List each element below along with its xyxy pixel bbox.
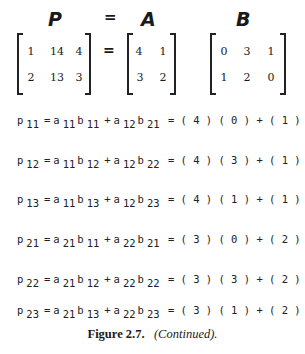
subscript: 13	[87, 197, 100, 209]
expansion: = ( 4 ) ( 1 ) + ( 1 ) ( 0 ) = 4	[168, 193, 305, 205]
term: b	[77, 154, 83, 166]
term: p	[17, 273, 23, 285]
subscript: 22	[147, 277, 160, 289]
equation-line: p11=a11b11+a12b21 = ( 4 ) ( 0 ) + ( 1 ) …	[17, 114, 305, 130]
plus-sign: +	[104, 154, 110, 166]
left-bracket-icon	[210, 33, 216, 95]
matrix-b: 0 3 1 1 2 0	[210, 33, 286, 95]
matrix-cell: 1	[268, 45, 275, 58]
subscript: 12	[87, 277, 100, 289]
matrix-cell: 3	[76, 71, 83, 84]
matrix-cell: 4	[76, 45, 83, 58]
plus-sign: +	[104, 304, 110, 316]
term: b	[77, 304, 83, 316]
subscript: 13	[87, 308, 100, 320]
subscript: 11	[63, 118, 76, 130]
matrix-label-p: P	[48, 8, 62, 30]
equation-line: p23=a21b13+a22b23 = ( 3 ) ( 1 ) + ( 2 ) …	[17, 304, 305, 320]
subscript: 12	[87, 158, 100, 170]
matrix-cell: 4	[136, 45, 143, 58]
term: b	[77, 114, 83, 126]
plus-sign: +	[104, 114, 110, 126]
term: a	[114, 154, 120, 166]
subscript: 21	[63, 308, 76, 320]
subscript: 11	[63, 158, 76, 170]
term: a	[53, 233, 59, 245]
subscript: 12	[123, 118, 136, 130]
term: a	[53, 154, 59, 166]
right-bracket-icon	[280, 33, 286, 95]
matrix-row: 1 2 0	[210, 71, 286, 85]
term: a	[114, 273, 120, 285]
term: b	[138, 233, 144, 245]
term: b	[138, 273, 144, 285]
header-equals-sign: =	[104, 8, 117, 26]
term: b	[77, 193, 83, 205]
matrix-row: 2 13 3	[17, 71, 91, 85]
expansion: = ( 4 ) ( 3 ) + ( 1 ) ( 2 ) = 14	[168, 154, 305, 166]
subscript: 21	[26, 237, 39, 249]
subscript: 12	[26, 158, 39, 170]
subscript: 11	[63, 197, 76, 209]
equation-line: p22=a21b12+a22b22 = ( 3 ) ( 3 ) + ( 2 ) …	[17, 273, 305, 289]
equals-sign: =	[44, 304, 50, 316]
equation-line: p12=a11b12+a12b22 = ( 4 ) ( 3 ) + ( 1 ) …	[17, 154, 305, 170]
matrix-cell: 3	[244, 45, 251, 58]
matrix-cell: 0	[221, 45, 228, 58]
subscript: 21	[63, 237, 76, 249]
matrix-row: 4 1	[127, 45, 176, 59]
right-bracket-icon	[85, 33, 91, 95]
matrix-row: 0 3 1	[210, 45, 286, 59]
expansion: = ( 4 ) ( 0 ) + ( 1 ) ( 1 ) = 1	[168, 114, 305, 126]
matrix-cell: 14	[50, 45, 64, 58]
term: a	[114, 193, 120, 205]
subscript: 12	[123, 158, 136, 170]
subscript: 11	[87, 118, 100, 130]
matrix-cell: 2	[244, 71, 251, 84]
subscript: 23	[26, 308, 39, 320]
figure-label: Figure 2.7.	[88, 327, 145, 341]
term: a	[53, 193, 59, 205]
equals-sign: =	[44, 114, 50, 126]
term: a	[53, 114, 59, 126]
term: b	[138, 193, 144, 205]
subscript: 11	[87, 237, 100, 249]
matrix-label-a: A	[141, 8, 156, 30]
term: p	[17, 304, 23, 316]
term: b	[77, 273, 83, 285]
figure-note: (Continued).	[154, 327, 218, 341]
subscript: 21	[147, 118, 160, 130]
left-bracket-icon	[127, 33, 133, 95]
subscript: 22	[123, 277, 136, 289]
equation-line: p13=a11b13+a12b23 = ( 4 ) ( 1 ) + ( 1 ) …	[17, 193, 305, 209]
term: a	[114, 114, 120, 126]
equals-sign: =	[44, 154, 50, 166]
matrix-cell: 13	[50, 71, 64, 84]
expansion: = ( 3 ) ( 1 ) + ( 2 ) ( 0 ) = 3	[168, 304, 305, 316]
matrix-row: 1 14 4	[17, 45, 91, 59]
subscript: 23	[147, 197, 160, 209]
matrix-cell: 2	[160, 71, 167, 84]
equation-line: p21=a21b11+a22b21 = ( 3 ) ( 0 ) + ( 2 ) …	[17, 233, 305, 249]
subscript: 23	[147, 308, 160, 320]
matrix-cell: 0	[268, 71, 275, 84]
matrix-cell: 1	[221, 71, 228, 84]
figure-caption: Figure 2.7. (Continued).	[0, 327, 305, 342]
subscript: 13	[26, 197, 39, 209]
term: b	[138, 154, 144, 166]
matrix-a: 4 1 3 2	[127, 33, 176, 95]
equals-sign: =	[44, 273, 50, 285]
term: b	[138, 304, 144, 316]
plus-sign: +	[104, 233, 110, 245]
term: p	[17, 233, 23, 245]
matrix-cell: 2	[28, 71, 35, 84]
subscript: 22	[123, 308, 136, 320]
expansion: = ( 3 ) ( 0 ) + ( 2 ) ( 1 ) = 2	[168, 233, 305, 245]
matrix-cell: 1	[28, 45, 35, 58]
term: a	[53, 273, 59, 285]
matrix-cell: 1	[160, 45, 167, 58]
matrix-p: 1 14 4 2 13 3	[17, 33, 91, 95]
subscript: 21	[63, 277, 76, 289]
plus-sign: +	[104, 193, 110, 205]
subscript: 21	[147, 237, 160, 249]
